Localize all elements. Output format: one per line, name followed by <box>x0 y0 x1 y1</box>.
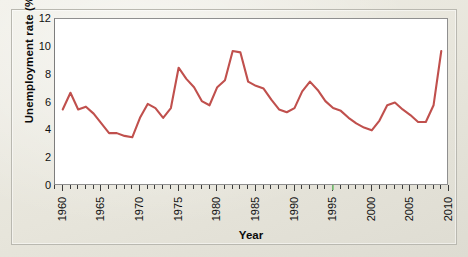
x-tick-label: 1960 <box>45 192 79 226</box>
x-tick-minor <box>170 185 171 189</box>
x-tick-minor <box>201 185 202 189</box>
x-tick-minor <box>124 185 125 189</box>
x-tick-major <box>255 185 256 191</box>
x-tick-minor <box>224 185 225 189</box>
x-tick-major <box>178 185 179 191</box>
x-tick-minor <box>193 185 194 189</box>
plot-inner <box>55 19 447 184</box>
x-tick-minor <box>340 185 341 189</box>
x-tick-minor <box>440 185 441 189</box>
x-tick-label: 1995 <box>315 192 349 226</box>
x-tick-minor <box>108 185 109 189</box>
plot-area <box>54 18 448 185</box>
x-tick-minor <box>239 185 240 189</box>
y-tick-label: 12 <box>23 13 51 23</box>
figure-page: Unemployment rate (%) 024681012 19601965… <box>0 0 468 257</box>
x-tick-major <box>216 185 217 191</box>
x-tick-minor <box>270 185 271 189</box>
x-tick-major <box>100 185 101 191</box>
y-tick-label: 6 <box>23 97 51 107</box>
x-tick-minor <box>278 185 279 189</box>
x-tick-minor <box>247 185 248 189</box>
print-artifact-speck <box>332 185 334 190</box>
y-tick-label: 0 <box>23 180 51 190</box>
x-tick-major <box>62 185 63 191</box>
y-tick-label: 2 <box>23 152 51 162</box>
x-tick-major <box>294 185 295 191</box>
series-line-unemployment-rate <box>63 51 442 137</box>
x-tick-minor <box>185 185 186 189</box>
x-tick-minor <box>70 185 71 189</box>
x-tick-minor <box>116 185 117 189</box>
x-tick-minor <box>425 185 426 189</box>
x-tick-major <box>371 185 372 191</box>
x-tick-minor <box>85 185 86 189</box>
x-axis-tick-labels: 1960196519701975198019851990199520002005… <box>54 192 448 226</box>
x-tick-minor <box>324 185 325 189</box>
x-tick-minor <box>301 185 302 189</box>
x-tick-label: 1975 <box>161 192 195 226</box>
x-tick-minor <box>317 185 318 189</box>
x-tick-label: 2005 <box>392 192 426 226</box>
x-tick-minor <box>394 185 395 189</box>
x-tick-label: 1970 <box>122 192 156 226</box>
y-tick-label: 8 <box>23 69 51 79</box>
x-axis-ticks <box>54 185 448 192</box>
unemployment-line-chart <box>55 19 449 186</box>
y-axis-tick-labels: 024681012 <box>18 18 51 185</box>
x-tick-minor <box>209 185 210 189</box>
x-tick-major <box>448 185 449 191</box>
x-tick-minor <box>286 185 287 189</box>
x-tick-label: 1990 <box>277 192 311 226</box>
x-tick-minor <box>355 185 356 189</box>
x-tick-minor <box>379 185 380 189</box>
y-tick-label: 4 <box>23 124 51 134</box>
x-tick-minor <box>363 185 364 189</box>
x-tick-minor <box>54 185 55 189</box>
x-tick-minor <box>93 185 94 189</box>
y-tick-label: 10 <box>23 41 51 51</box>
x-tick-label: 1985 <box>238 192 272 226</box>
x-tick-label: 2000 <box>354 192 388 226</box>
x-tick-minor <box>309 185 310 189</box>
x-tick-minor <box>386 185 387 189</box>
x-tick-label: 1980 <box>199 192 233 226</box>
x-axis-title: Year <box>54 229 448 241</box>
x-tick-minor <box>154 185 155 189</box>
x-tick-minor <box>263 185 264 189</box>
x-tick-minor <box>348 185 349 189</box>
x-tick-minor <box>433 185 434 189</box>
x-tick-minor <box>402 185 403 189</box>
x-tick-label: 2010 <box>431 192 465 226</box>
x-tick-minor <box>232 185 233 189</box>
x-tick-minor <box>77 185 78 189</box>
x-tick-minor <box>417 185 418 189</box>
x-tick-minor <box>162 185 163 189</box>
x-tick-minor <box>131 185 132 189</box>
x-tick-label: 1965 <box>83 192 117 226</box>
x-tick-major <box>139 185 140 191</box>
x-tick-major <box>409 185 410 191</box>
x-tick-minor <box>147 185 148 189</box>
